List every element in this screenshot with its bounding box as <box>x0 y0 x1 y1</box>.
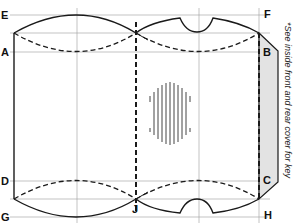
label-D: D <box>1 176 9 187</box>
label-E: E <box>1 10 8 21</box>
pillow-box-template <box>0 0 294 223</box>
hatched-window-icon <box>150 82 190 145</box>
label-A: A <box>1 47 9 58</box>
label-J: J <box>132 204 138 215</box>
label-H: H <box>264 210 272 221</box>
label-G: G <box>1 212 10 223</box>
key-note: *See inside front and rear cover for key <box>283 22 293 178</box>
label-C: C <box>263 175 271 186</box>
guide-lines <box>10 8 270 223</box>
crossing-marks <box>136 33 148 199</box>
fold-lines <box>14 22 259 211</box>
label-F: F <box>264 9 271 20</box>
label-B: B <box>263 47 271 58</box>
